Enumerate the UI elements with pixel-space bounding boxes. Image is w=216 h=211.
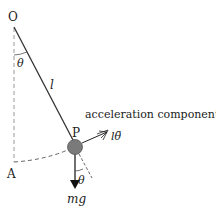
swing-arc (14, 149, 70, 162)
acceleration-arrow (82, 132, 107, 143)
label-weight-mg: mg (67, 192, 86, 206)
label-theta-bottom: θ (78, 174, 85, 187)
label-length-l: l (50, 78, 54, 92)
acceleration-arrowhead (97, 130, 108, 140)
diagram-svg: O θ l P A acceleration component lθ̈ θ m… (0, 0, 216, 211)
label-theta-top: θ (17, 57, 24, 70)
angle-arc-bottom (75, 169, 83, 171)
pendulum-diagram: O θ l P A acceleration component lθ̈ θ m… (0, 0, 216, 211)
label-bob-P: P (72, 126, 80, 140)
angle-arc-top (14, 52, 27, 55)
label-acceleration-component: acceleration component (85, 108, 216, 121)
label-point-A: A (6, 167, 16, 181)
pendulum-bob (68, 140, 83, 155)
label-acceleration-symbol: lθ̈ (111, 130, 122, 143)
pendulum-string (14, 27, 74, 142)
label-pivot-O: O (8, 10, 18, 24)
